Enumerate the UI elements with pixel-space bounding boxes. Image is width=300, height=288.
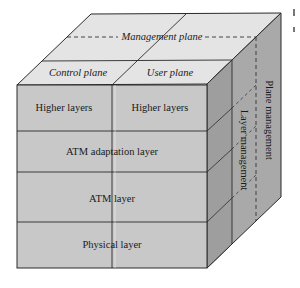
layer-management-slab — [207, 60, 232, 268]
atm-adaptation-layer: ATM adaptation layer — [66, 146, 159, 157]
atm-cube-diagram: Management plane Control plane User plan… — [0, 0, 300, 288]
higher-layers-right: Higher layers — [132, 102, 189, 113]
margin-marks — [293, 9, 297, 33]
layer-management-label: Layer management — [239, 110, 250, 191]
higher-layers-left: Higher layers — [36, 102, 93, 113]
atm-layer: ATM layer — [89, 193, 135, 204]
physical-layer: Physical layer — [82, 239, 142, 250]
management-plane-label: Management plane — [121, 31, 203, 42]
plane-management-label: Plane management — [264, 80, 275, 160]
control-plane-label: Control plane — [49, 67, 108, 78]
front-face: Higher layers Higher layers ATM adaptati… — [17, 85, 207, 268]
user-plane-label: User plane — [147, 67, 194, 78]
